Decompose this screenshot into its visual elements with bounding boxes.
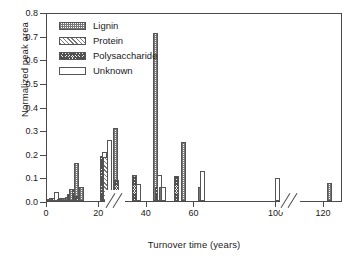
x-tick-mark <box>193 202 194 207</box>
x-axis-title: Turnover time (years) <box>46 239 342 250</box>
legend-item-unknown[interactable]: Unknown <box>59 65 157 77</box>
y-tick-label: 0.0 <box>2 198 38 207</box>
x-tick-label: 0 <box>31 209 61 218</box>
y-tick-label: 0.2 <box>2 151 38 160</box>
legend-swatch-lignin-icon <box>59 22 86 30</box>
y-tick-label: 0.5 <box>2 80 38 89</box>
x-tick-mark <box>46 202 47 207</box>
x-tick-mark <box>323 202 324 207</box>
x-tick-mark <box>146 202 147 207</box>
y-tick-label: 0.3 <box>2 127 38 136</box>
chart-legend: LigninProteinPolysaccharideUnknown <box>59 20 157 77</box>
x-tick-mark <box>275 202 276 207</box>
y-tick-label: 0.6 <box>2 56 38 65</box>
bar-lignin <box>327 183 332 201</box>
y-axis-title: Normalized peak area <box>19 0 30 140</box>
plot-area: LigninProteinPolysaccharideUnknown <box>46 13 342 202</box>
bar-unknown <box>161 187 166 201</box>
x-axis-break-2 <box>280 190 300 212</box>
legend-label: Polysaccharide <box>93 51 157 61</box>
legend-item-lignin[interactable]: Lignin <box>59 20 157 32</box>
legend-item-polysaccharide[interactable]: Polysaccharide <box>59 50 157 62</box>
bar-unknown <box>200 171 205 201</box>
bar-lignin <box>79 187 84 201</box>
x-tick-label: 120 <box>308 209 338 218</box>
bar-unknown <box>136 184 141 201</box>
legend-label: Lignin <box>93 21 118 31</box>
y-tick-label: 0.4 <box>2 104 38 113</box>
y-tick-label: 0.8 <box>2 9 38 18</box>
legend-label: Protein <box>93 36 123 46</box>
y-tick-label: 0.1 <box>2 174 38 183</box>
legend-swatch-polysaccharide-icon <box>59 52 86 60</box>
x-tick-mark <box>98 202 99 207</box>
x-tick-label: 40 <box>131 209 161 218</box>
legend-swatch-protein-icon <box>59 37 86 45</box>
bar-lignin <box>181 142 186 201</box>
legend-swatch-unknown-icon <box>59 67 86 75</box>
x-tick-label: 60 <box>178 209 208 218</box>
bar-polysaccharide <box>174 176 179 202</box>
chart-figure: Normalized peak area 0.00.10.20.30.40.50… <box>0 0 359 259</box>
x-axis-break-1 <box>105 190 125 212</box>
legend-label: Unknown <box>93 66 133 76</box>
y-tick-label: 0.7 <box>2 33 38 42</box>
legend-item-protein[interactable]: Protein <box>59 35 157 47</box>
